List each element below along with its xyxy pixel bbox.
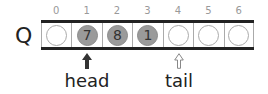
filled-slot: 7 (77, 25, 98, 46)
empty-slot (168, 25, 189, 46)
index-label: 4 (163, 4, 193, 18)
index-label: 2 (102, 4, 132, 18)
tail-label: tail (165, 71, 193, 91)
empty-slot (46, 25, 67, 46)
filled-slot: 1 (137, 25, 158, 46)
index-label: 6 (224, 4, 254, 18)
array-cell (41, 23, 71, 47)
index-label: 0 (41, 4, 71, 18)
queue-array: 7 8 1 (41, 20, 254, 50)
head-label: head (65, 71, 110, 91)
array-cell (163, 23, 193, 47)
array-cell: 8 (102, 23, 132, 47)
empty-slot (198, 25, 219, 46)
index-row: 0 1 2 3 4 5 6 (41, 4, 254, 18)
queue-label: Q (15, 25, 32, 47)
index-label: 3 (132, 4, 162, 18)
index-label: 5 (193, 4, 223, 18)
head-pointer: head (63, 53, 111, 91)
hollow-up-arrow-icon (174, 53, 184, 69)
array-cell (193, 23, 223, 47)
solid-up-arrow-icon (82, 53, 92, 69)
array-cell: 1 (132, 23, 162, 47)
filled-slot: 8 (107, 25, 128, 46)
array-cell (224, 23, 254, 47)
array-cell: 7 (71, 23, 101, 47)
index-label: 1 (71, 4, 101, 18)
empty-slot (228, 25, 249, 46)
tail-pointer: tail (162, 53, 196, 91)
